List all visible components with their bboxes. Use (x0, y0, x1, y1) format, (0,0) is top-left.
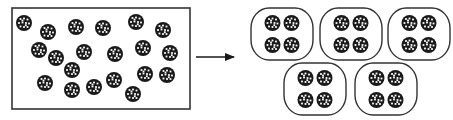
particle-icon (353, 37, 369, 53)
particle-icon (31, 42, 47, 58)
particle-icon (40, 24, 56, 40)
particle-icon (64, 82, 80, 98)
particle-icon (317, 70, 333, 86)
particle-icon (421, 15, 437, 31)
particle-icon (298, 92, 314, 108)
particle-icon (95, 20, 111, 36)
particle-icon (162, 45, 178, 61)
particle-icon (106, 72, 122, 88)
particle-icon (107, 46, 123, 62)
particle-icon (317, 92, 333, 108)
particle-icon (388, 70, 404, 86)
particle-icon (284, 15, 300, 31)
particle-icon (334, 15, 350, 31)
particle-group (284, 63, 346, 115)
particle-icon (128, 14, 144, 30)
particle-icon (369, 70, 385, 86)
particle-icon (284, 37, 300, 53)
particle-group (320, 8, 382, 60)
particle-icon (135, 40, 151, 56)
particle-icon (159, 67, 175, 83)
particle-icon (265, 37, 281, 53)
scattered-particles (16, 14, 178, 102)
particle-icon (421, 37, 437, 53)
particle-icon (86, 79, 102, 95)
particle-group (388, 8, 450, 60)
particle-icon (125, 86, 141, 102)
particle-icon (16, 15, 32, 31)
grouping-diagram (0, 0, 453, 120)
particle-icon (298, 70, 314, 86)
particle-icon (265, 15, 281, 31)
particle-groups (251, 8, 450, 115)
particle-group (251, 8, 313, 60)
particle-icon (76, 44, 92, 60)
particle-icon (48, 50, 64, 66)
particle-icon (334, 37, 350, 53)
particle-icon (402, 37, 418, 53)
particle-group (355, 63, 417, 115)
particle-icon (369, 92, 385, 108)
particle-icon (64, 62, 80, 78)
particle-icon (137, 66, 153, 82)
particle-icon (155, 22, 171, 38)
particle-icon (353, 15, 369, 31)
particle-icon (388, 92, 404, 108)
particle-icon (402, 15, 418, 31)
particle-icon (37, 75, 53, 91)
particle-icon (68, 19, 84, 35)
